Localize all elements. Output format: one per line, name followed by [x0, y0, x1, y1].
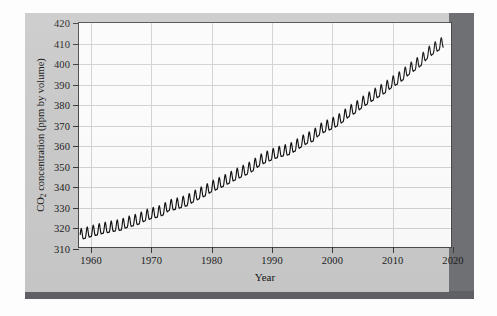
y-axis-title: CO2 concentration (ppm by volume): [34, 22, 48, 248]
y-axis-tick-label: 410: [54, 38, 70, 49]
y-axis-tick-label: 330: [54, 202, 70, 213]
x-axis-tick-label: 2010: [382, 255, 403, 266]
x-axis-tick-label: 2020: [442, 255, 463, 266]
co2-line-path: [80, 38, 443, 239]
y-axis-tick-label: 320: [54, 223, 70, 234]
x-axis-tick-label: 2000: [322, 255, 343, 266]
x-axis-tick-label: 1990: [261, 255, 282, 266]
x-axis-tick-label: 1960: [80, 255, 101, 266]
y-axis-title-subscript: 2: [39, 193, 48, 197]
y-axis-tick-label: 400: [54, 59, 70, 70]
x-axis-title: Year: [78, 271, 452, 283]
y-axis-title-pre: CO: [35, 197, 46, 212]
x-axis-tick: [453, 247, 454, 253]
co2-curve: [79, 23, 451, 247]
figure-page: CO2 concentration (ppm by volume) 310320…: [0, 0, 497, 316]
plot-area: 3103203303403503603703803904004104201960…: [78, 22, 452, 248]
panel-drop-shadow-bottom: [25, 291, 474, 299]
y-axis-tick: [73, 249, 79, 250]
y-axis-tick-label: 360: [54, 141, 70, 152]
chart-figure-panel: CO2 concentration (ppm by volume) 310320…: [25, 13, 449, 292]
x-axis-tick: [91, 247, 92, 253]
x-axis-tick: [393, 247, 394, 253]
y-axis-tick-label: 420: [54, 18, 70, 29]
y-axis-tick-label: 340: [54, 182, 70, 193]
x-axis-tick-label: 1970: [141, 255, 162, 266]
y-axis-tick-label: 380: [54, 100, 70, 111]
y-axis-title-post: concentration (ppm by volume): [35, 58, 46, 193]
x-axis-tick: [212, 247, 213, 253]
x-axis-tick: [272, 247, 273, 253]
y-axis-tick-label: 350: [54, 161, 70, 172]
y-axis-tick-label: 370: [54, 120, 70, 131]
y-axis-tick-label: 310: [54, 244, 70, 255]
x-axis-tick: [332, 247, 333, 253]
y-axis-tick-label: 390: [54, 79, 70, 90]
x-axis-tick-label: 1980: [201, 255, 222, 266]
x-axis-tick: [151, 247, 152, 253]
